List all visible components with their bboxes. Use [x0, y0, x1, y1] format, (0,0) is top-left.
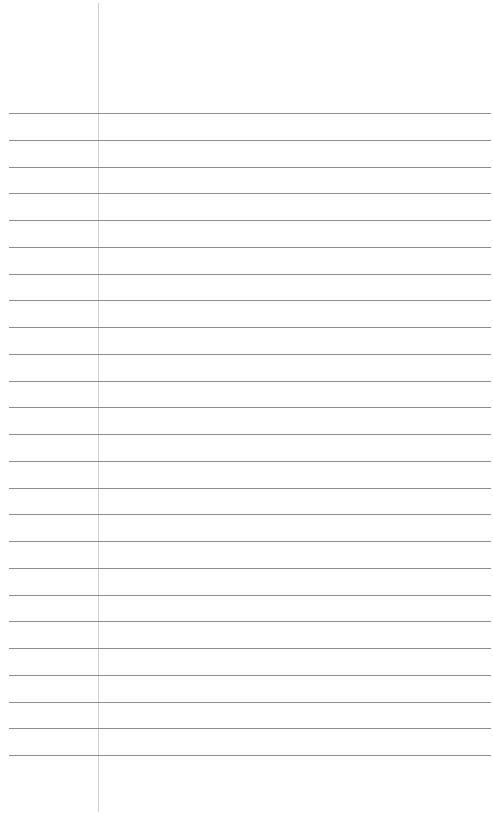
ruled-line: [9, 621, 491, 622]
lined-paper-page: [0, 0, 493, 815]
ruled-line: [9, 247, 491, 248]
ruled-line: [9, 167, 491, 168]
ruled-line: [9, 327, 491, 328]
ruled-line: [9, 595, 491, 596]
ruled-line: [9, 113, 491, 114]
ruled-line: [9, 755, 491, 756]
ruled-line: [9, 514, 491, 515]
ruled-line: [9, 702, 491, 703]
ruled-line: [9, 675, 491, 676]
ruled-line: [9, 648, 491, 649]
ruled-line: [9, 300, 491, 301]
ruled-line: [9, 220, 491, 221]
ruled-line: [9, 354, 491, 355]
ruled-line: [9, 541, 491, 542]
ruled-line: [9, 434, 491, 435]
ruled-line: [9, 274, 491, 275]
ruled-line: [9, 461, 491, 462]
ruled-line: [9, 140, 491, 141]
ruled-line: [9, 728, 491, 729]
ruled-line: [9, 407, 491, 408]
ruled-line: [9, 193, 491, 194]
ruled-line: [9, 381, 491, 382]
ruled-line: [9, 568, 491, 569]
ruled-line: [9, 488, 491, 489]
